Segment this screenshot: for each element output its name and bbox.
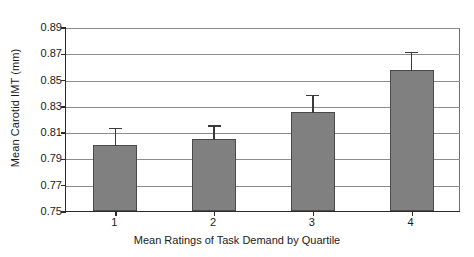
y-axis-tick-labels: 0.890.870.850.830.810.790.770.75 (26, 0, 62, 257)
x-axis-tick-label: 3 (292, 216, 332, 228)
bar (192, 139, 236, 211)
y-axis-tick-label: 0.75 (28, 206, 62, 217)
y-axis-tick-mark (61, 54, 66, 55)
y-axis-title-text: Mean Carotid IMT (mm) (9, 48, 21, 167)
error-bar (411, 52, 412, 72)
error-bar-cap (405, 52, 418, 53)
error-bar-cap (306, 95, 319, 96)
plot-area (65, 28, 460, 212)
bar (93, 145, 137, 211)
plot-frame-right (459, 28, 460, 211)
gridline (66, 54, 460, 55)
y-axis-tick-mark (61, 159, 66, 160)
y-axis-tick-mark (61, 211, 66, 212)
y-axis-tick-label: 0.79 (28, 153, 62, 164)
y-axis-tick-label: 0.83 (28, 101, 62, 112)
bar (291, 112, 335, 211)
y-axis-tick-label: 0.87 (28, 48, 62, 59)
x-axis-tick-label: 2 (193, 216, 233, 228)
y-axis-tick-label: 0.81 (28, 127, 62, 138)
y-axis-tick-label: 0.89 (28, 22, 62, 33)
error-bar-cap (109, 128, 122, 129)
y-axis-tick-label: 0.85 (28, 75, 62, 86)
y-axis-tick-mark (61, 27, 66, 28)
error-bar (312, 95, 313, 113)
y-axis-tick-mark (61, 80, 66, 81)
bar (390, 70, 434, 211)
error-bar (213, 125, 214, 139)
x-axis-tick-label: 4 (391, 216, 431, 228)
error-bar (115, 128, 116, 146)
y-axis-tick-mark (61, 132, 66, 133)
y-axis-tick-mark (61, 106, 66, 107)
x-axis-tick-label: 1 (94, 216, 134, 228)
gridline (66, 28, 460, 29)
x-axis-title: Mean Ratings of Task Demand by Quartile (0, 234, 474, 246)
y-axis-tick-label: 0.77 (28, 180, 62, 191)
error-bar-cap (208, 125, 221, 126)
y-axis-tick-mark (61, 185, 66, 186)
chart-figure: Mean Carotid IMT (mm) 0.890.870.850.830.… (0, 0, 474, 257)
